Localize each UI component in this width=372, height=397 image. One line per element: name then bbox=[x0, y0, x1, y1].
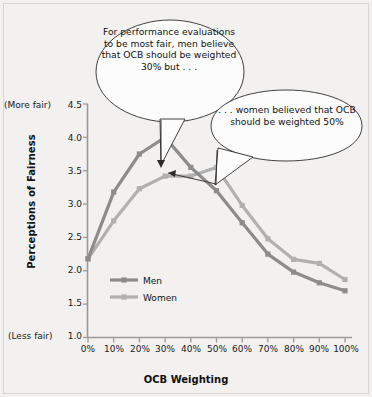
y-tick-label: 3.5 bbox=[52, 166, 82, 176]
data-point bbox=[317, 261, 322, 266]
y-tick-label: 1.5 bbox=[52, 298, 82, 308]
data-point bbox=[342, 277, 347, 282]
data-point bbox=[137, 151, 142, 156]
less-fair-label: (Less fair) bbox=[8, 331, 53, 341]
more-fair-label: (More fair) bbox=[4, 100, 51, 110]
y-tick-label: 2.0 bbox=[52, 265, 82, 275]
y-tick-label: 1.0 bbox=[52, 331, 82, 341]
x-tick-label: 100% bbox=[329, 344, 363, 354]
data-point bbox=[163, 174, 168, 179]
y-tick-label: 2.5 bbox=[52, 232, 82, 242]
data-point bbox=[137, 186, 142, 191]
data-point bbox=[111, 218, 116, 223]
men-callout-text: For performance evaluations to be most f… bbox=[93, 26, 245, 72]
legend-markers bbox=[110, 277, 138, 299]
x-axis-title: OCB Weighting bbox=[0, 374, 372, 385]
data-point bbox=[85, 256, 90, 261]
data-point bbox=[240, 203, 245, 208]
callout-men-arrow bbox=[157, 160, 165, 168]
y-tick-label: 4.0 bbox=[52, 133, 82, 143]
data-point bbox=[265, 236, 270, 241]
y-tick-label: 3.0 bbox=[52, 199, 82, 209]
women-callout-text: . . . women believed that OCB should be … bbox=[216, 104, 358, 127]
y-tick-label: 4.5 bbox=[52, 100, 82, 110]
data-point bbox=[214, 188, 219, 193]
data-point bbox=[317, 280, 322, 285]
data-point bbox=[240, 220, 245, 225]
data-point bbox=[188, 165, 193, 170]
data-point bbox=[265, 252, 270, 257]
legend-label-men: Men bbox=[143, 276, 162, 286]
legend-label-women: Women bbox=[143, 293, 177, 303]
chart-figure: 4.5 4.0 3.5 3.0 2.5 2.0 1.5 1.0 (More fa… bbox=[0, 0, 372, 397]
y-axis-title: Perceptions of Fairness bbox=[26, 127, 37, 277]
data-point bbox=[291, 257, 296, 262]
data-point bbox=[342, 288, 347, 293]
data-point bbox=[291, 270, 296, 275]
data-point bbox=[111, 190, 116, 195]
